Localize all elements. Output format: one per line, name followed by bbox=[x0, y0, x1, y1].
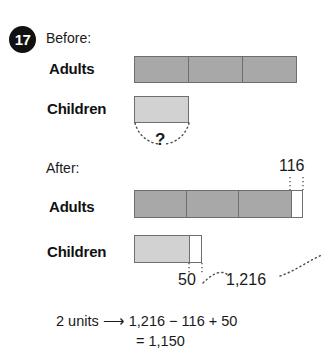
after-adults-extra-label: 116 bbox=[279, 157, 305, 175]
after-children-label: Children bbox=[47, 243, 106, 260]
after-adults-extra-segment bbox=[291, 191, 302, 217]
before-adults-unit-2 bbox=[188, 57, 241, 82]
before-children-bar bbox=[134, 96, 189, 123]
question-number-badge: 17 bbox=[9, 26, 36, 53]
after-adults-extra-leader-lines bbox=[288, 177, 308, 191]
before-adults-bar bbox=[134, 56, 297, 83]
after-adults-bar bbox=[134, 190, 303, 218]
before-caption: Before: bbox=[46, 30, 91, 46]
working-line-2: = 1,150 bbox=[136, 333, 185, 349]
after-adults-unit-1 bbox=[135, 191, 186, 217]
before-children-label: Children bbox=[47, 100, 106, 117]
working-line-1: 2 units ⟶ 1,216 − 116 + 50 bbox=[56, 313, 237, 329]
after-children-bar bbox=[134, 235, 202, 263]
after-caption: After: bbox=[46, 160, 79, 176]
after-children-extra-label: 50 bbox=[178, 271, 196, 289]
before-adults-unit-3 bbox=[242, 57, 296, 82]
after-adults-label: Adults bbox=[49, 198, 94, 215]
after-children-unit-1 bbox=[135, 236, 189, 262]
before-adults-unit-1 bbox=[135, 57, 188, 82]
after-adults-unit-3 bbox=[238, 191, 290, 217]
after-total-label: 1,216 bbox=[226, 271, 266, 289]
before-children-unknown-label: ? bbox=[155, 130, 165, 150]
before-children-unit-1 bbox=[135, 97, 188, 122]
after-adults-unit-2 bbox=[186, 191, 238, 217]
before-adults-label: Adults bbox=[49, 60, 94, 77]
